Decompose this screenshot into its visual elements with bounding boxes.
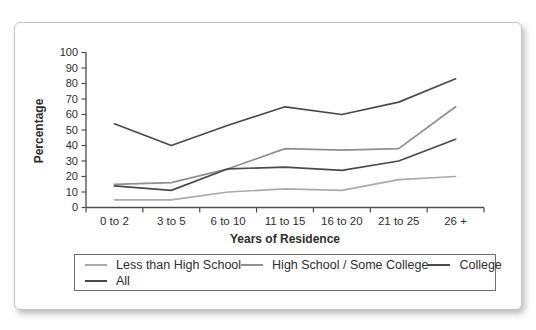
y-tick-label: 20 bbox=[66, 170, 78, 182]
x-category-label: 16 to 20 bbox=[321, 215, 363, 227]
x-category-label: 11 to 15 bbox=[265, 215, 306, 227]
y-tick-label: 50 bbox=[66, 124, 78, 136]
y-axis-title: Percentage bbox=[32, 56, 48, 206]
legend-label: All bbox=[116, 274, 130, 288]
legend-line-swatch bbox=[85, 264, 107, 266]
plot-area: 01020304050607080901000 to 23 to 56 to 1… bbox=[15, 23, 521, 309]
legend-label: College bbox=[459, 258, 501, 272]
y-tick-label: 70 bbox=[66, 93, 78, 105]
legend-line-swatch bbox=[241, 264, 263, 266]
y-tick-label: 40 bbox=[66, 139, 78, 151]
y-tick-label: 0 bbox=[72, 201, 78, 213]
y-tick-label: 10 bbox=[66, 186, 78, 198]
x-category-label: 26 + bbox=[444, 215, 467, 227]
series-line-college bbox=[114, 79, 455, 146]
legend: Less than High SchoolHigh School / Some … bbox=[74, 254, 496, 291]
y-tick-label: 100 bbox=[60, 46, 78, 58]
legend-row-2: All bbox=[85, 274, 485, 288]
x-category-label: 6 to 10 bbox=[211, 215, 246, 227]
y-tick-label: 90 bbox=[66, 62, 78, 74]
series-line-less-than-high-school bbox=[114, 177, 455, 200]
series-line-high-school-some-college bbox=[114, 107, 455, 185]
y-tick-label: 30 bbox=[66, 155, 78, 167]
legend-line-swatch bbox=[428, 264, 450, 266]
legend-label: High School / Some College bbox=[272, 258, 428, 272]
y-tick-label: 60 bbox=[66, 108, 78, 120]
chart-card: 01020304050607080901000 to 23 to 56 to 1… bbox=[14, 22, 522, 310]
legend-line-swatch bbox=[85, 280, 107, 282]
legend-item-all: All bbox=[85, 274, 130, 288]
legend-label: Less than High School bbox=[116, 258, 241, 272]
legend-item-college: College bbox=[428, 258, 501, 272]
legend-row-1: Less than High SchoolHigh School / Some … bbox=[85, 258, 485, 272]
legend-item-high-school-some-college: High School / Some College bbox=[241, 258, 428, 272]
x-category-label: 21 to 25 bbox=[378, 215, 420, 227]
y-tick-label: 80 bbox=[66, 77, 78, 89]
legend-item-less-than-high-school: Less than High School bbox=[85, 258, 241, 272]
x-axis-title: Years of Residence bbox=[86, 232, 484, 246]
x-category-label: 0 to 2 bbox=[100, 215, 129, 227]
x-category-label: 3 to 5 bbox=[157, 215, 186, 227]
